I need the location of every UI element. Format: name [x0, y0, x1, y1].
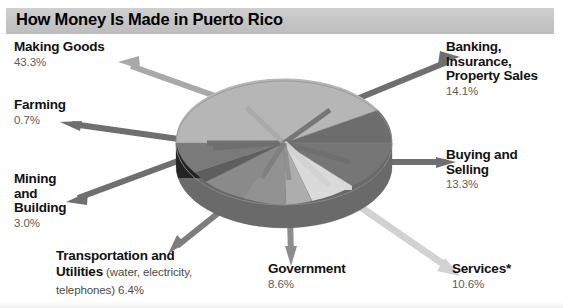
label-banking-line2: Insurance, [446, 55, 538, 70]
label-banking-line1: Banking, [446, 40, 538, 55]
label-making-goods-name: Making Goods [14, 40, 105, 55]
label-transport-line1: Transportation and [56, 249, 271, 264]
label-transport-detail: (water, electricity, [103, 266, 192, 278]
label-banking-insurance: Banking, Insurance, Property Sales 14.1% [446, 40, 538, 98]
label-mining-line2: and [14, 187, 66, 202]
label-transport-pct: 6.4% [115, 284, 144, 296]
label-farming-name: Farming [14, 98, 66, 113]
label-government-name: Government [268, 262, 346, 277]
label-government-pct: 8.6% [268, 277, 346, 291]
label-mining-line3: Building [14, 201, 66, 216]
label-services-name: Services* [452, 262, 511, 277]
label-transportation-utilities: Transportation and Utilities (water, ele… [56, 249, 271, 298]
label-buying-selling: Buying and Selling 13.3% [446, 148, 518, 191]
label-banking-pct: 14.1% [446, 84, 538, 98]
label-transport-line3-wrap: telephones) 6.4% [56, 280, 271, 298]
label-government: Government 8.6% [268, 262, 346, 291]
label-making-goods-pct: 43.3% [14, 55, 105, 69]
label-banking-line3: Property Sales [446, 69, 538, 84]
label-buying-line1: Buying and [446, 148, 518, 163]
label-transport-detail2: telephones) [56, 284, 115, 296]
label-buying-line2: Selling [446, 163, 518, 178]
label-services: Services* 10.6% [452, 262, 511, 291]
label-mining-building: Mining and Building 3.0% [14, 172, 66, 230]
label-transport-line2: Utilities [56, 264, 103, 279]
label-making-goods: Making Goods 43.3% [14, 40, 105, 69]
label-farming: Farming 0.7% [14, 98, 66, 127]
label-buying-pct: 13.3% [446, 177, 518, 191]
label-mining-pct: 3.0% [14, 216, 66, 230]
label-transport-line2-wrap: Utilities (water, electricity, [56, 264, 271, 280]
page-bottom-edge [0, 301, 563, 308]
label-mining-line1: Mining [14, 172, 66, 187]
chart-figure: How Money Is Made in Puerto Rico [0, 0, 563, 308]
label-services-pct: 10.6% [452, 277, 511, 291]
label-farming-pct: 0.7% [14, 113, 66, 127]
